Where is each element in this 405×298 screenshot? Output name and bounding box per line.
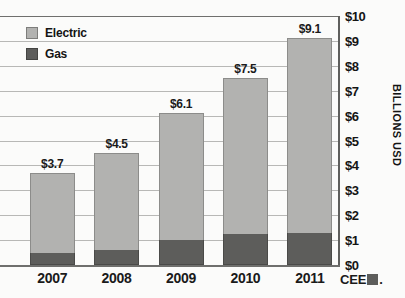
legend-swatch-gas-icon xyxy=(26,48,38,60)
legend-label: Electric xyxy=(45,26,87,40)
y-axis-tick: $7 xyxy=(345,83,358,98)
y-axis-tick: $6 xyxy=(345,108,358,123)
legend-swatch-electric-icon xyxy=(26,27,38,39)
y-axis-tick: $8 xyxy=(345,58,358,73)
legend-item-electric: Electric xyxy=(26,24,87,42)
x-axis-tick-2009: 2009 xyxy=(151,270,211,286)
legend-item-gas: Gas xyxy=(26,45,87,63)
bar-segment-electric xyxy=(287,38,332,232)
x-axis-tick-2011: 2011 xyxy=(280,270,340,286)
legend-label: Gas xyxy=(45,47,67,61)
bar-segment-electric xyxy=(223,78,268,234)
bar-2010: $7.5 xyxy=(223,78,268,265)
bar-value-label: $4.5 xyxy=(94,137,139,151)
y-axis-tick: $2 xyxy=(345,208,358,223)
bar-segment-gas xyxy=(30,253,75,265)
x-axis-tick-2010: 2010 xyxy=(215,270,275,286)
y-axis-tick: $1 xyxy=(345,233,358,248)
bar-2008: $4.5 xyxy=(94,153,139,265)
bar-segment-electric xyxy=(159,113,204,240)
bar-segment-electric xyxy=(94,153,139,250)
logo-dot: . xyxy=(379,272,383,287)
chart-screenshot: $3.7$4.5$6.1$7.5$9.1 $0$1$2$3$4$5$6$7$8$… xyxy=(0,0,405,298)
bar-2007: $3.7 xyxy=(30,173,75,265)
gridline xyxy=(0,265,340,267)
y-axis-tick: $5 xyxy=(345,133,358,148)
bar-value-label: $9.1 xyxy=(287,22,332,36)
bar-2009: $6.1 xyxy=(159,113,204,265)
y-axis-line xyxy=(338,16,340,265)
logo-text: CEE xyxy=(340,272,366,287)
y-axis-tick: $0 xyxy=(345,258,358,273)
y-axis-title: BILLIONS USD xyxy=(391,84,403,166)
bar-value-label: $6.1 xyxy=(159,97,204,111)
y-axis-tick: $4 xyxy=(345,158,358,173)
bar-segment-gas xyxy=(159,240,204,265)
gridline xyxy=(0,16,340,17)
bar-value-label: $3.7 xyxy=(30,157,75,171)
chart-legend: ElectricGas xyxy=(26,24,87,66)
x-axis-tick-2008: 2008 xyxy=(87,270,147,286)
bar-value-label: $7.5 xyxy=(223,62,268,76)
bar-2011: $9.1 xyxy=(287,38,332,265)
bar-segment-gas xyxy=(223,234,268,265)
y-axis-tick: $10 xyxy=(345,9,365,24)
y-axis-tick: $3 xyxy=(345,183,358,198)
y-axis-tick: $9 xyxy=(345,33,358,48)
bar-segment-gas xyxy=(287,233,332,265)
bar-segment-gas xyxy=(94,250,139,265)
bar-segment-electric xyxy=(30,173,75,253)
x-axis-tick-2007: 2007 xyxy=(22,270,82,286)
logo-mark-icon xyxy=(367,274,378,285)
cee-logo: CEE . xyxy=(340,272,383,287)
